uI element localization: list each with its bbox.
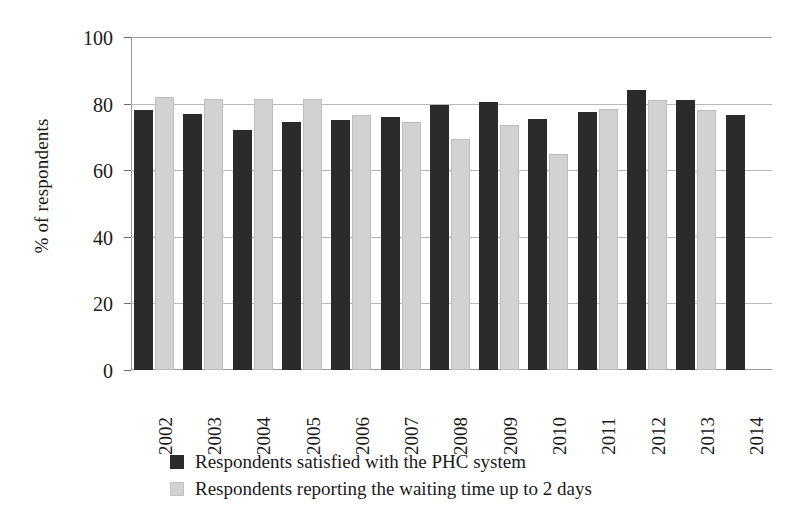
plot-area: 020406080100: [131, 37, 772, 370]
x-tick-label-text: 2003: [205, 417, 224, 455]
bar: [627, 90, 646, 370]
bar: [578, 112, 597, 370]
y-tick-label-20: 20: [93, 294, 113, 314]
bar-group: [624, 37, 673, 370]
bar: [430, 105, 449, 370]
bar: [381, 117, 400, 370]
bar: [402, 122, 421, 370]
bar-group: [180, 37, 229, 370]
x-tick-label-text: 2004: [254, 417, 273, 455]
y-tick-label-40: 40: [93, 228, 113, 248]
y-tick-40: 40: [124, 237, 131, 238]
x-tick-label-text: 2007: [402, 417, 421, 455]
bar: [134, 110, 153, 370]
dark-square-swatch-icon: [170, 455, 184, 469]
bar-group: [575, 37, 624, 370]
bar: [352, 115, 371, 370]
bar: [331, 120, 350, 370]
legend-label-series-0: Respondents satisfied with the PHC syste…: [195, 452, 526, 471]
bar: [155, 97, 174, 370]
y-tick-label-100: 100: [83, 28, 113, 48]
chart-legend: Respondents satisfied with the PHC syste…: [0, 452, 810, 506]
bar: [451, 139, 470, 370]
bar: [648, 100, 667, 370]
x-tick-label-text: 2002: [156, 417, 175, 455]
bar: [676, 100, 695, 370]
x-tick-label-text: 2013: [698, 417, 717, 455]
bar: [697, 110, 716, 370]
x-tick-label-text: 2005: [304, 417, 323, 455]
bar-group: [476, 37, 525, 370]
y-tick-label-80: 80: [93, 95, 113, 115]
x-tick-label-text: 2012: [649, 417, 668, 455]
bar: [479, 102, 498, 370]
legend-item-series-0: Respondents satisfied with the PHC syste…: [0, 452, 810, 471]
legend-label-series-1: Respondents reporting the waiting time u…: [195, 479, 592, 498]
y-tick-80: 80: [124, 104, 131, 105]
y-tick-60: 60: [124, 170, 131, 171]
y-tick-0: 0: [124, 370, 131, 371]
bar-group: [328, 37, 377, 370]
y-tick-label-60: 60: [93, 161, 113, 181]
bar-group: [525, 37, 574, 370]
y-axis-title: % of respondents: [31, 86, 53, 286]
bar-group: [230, 37, 279, 370]
bar: [233, 130, 252, 370]
y-tick-label-0: 0: [103, 361, 113, 381]
bar-series-container: [131, 37, 772, 370]
bar-group: [131, 37, 180, 370]
bar: [528, 119, 547, 370]
bar-group: [427, 37, 476, 370]
bar: [204, 99, 223, 370]
bar-group: [673, 37, 722, 370]
bar: [726, 115, 745, 370]
bar: [282, 122, 301, 370]
bar: [254, 99, 273, 370]
x-axis-tick-labels: 2002200320042005200620072008200920102011…: [131, 374, 772, 446]
x-tick-label-text: 2008: [451, 417, 470, 455]
x-tick-label-text: 2006: [353, 417, 372, 455]
light-square-swatch-icon: [170, 482, 184, 496]
x-tick-label-text: 2009: [501, 417, 520, 455]
x-tick-label-text: 2011: [599, 417, 618, 454]
bar: [549, 154, 568, 370]
bar-chart-figure: % of respondents 020406080100 2002200320…: [0, 0, 810, 525]
bar: [500, 125, 519, 370]
bar: [183, 114, 202, 370]
bar: [599, 109, 618, 370]
bar-group: [279, 37, 328, 370]
y-tick-100: 100: [124, 37, 131, 38]
bar-group: [378, 37, 427, 370]
y-tick-20: 20: [124, 303, 131, 304]
bar: [303, 99, 322, 370]
bar-group: [723, 37, 772, 370]
x-tick-label-text: 2010: [550, 417, 569, 455]
legend-item-series-1: Respondents reporting the waiting time u…: [0, 479, 810, 498]
x-tick-label-text: 2014: [747, 417, 766, 455]
